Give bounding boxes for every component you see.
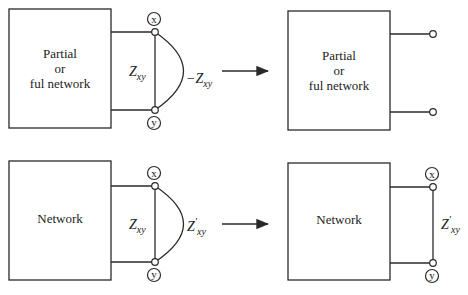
- open-node-bottom: [430, 109, 437, 116]
- impedance-arc: [155, 186, 184, 262]
- bottom-left-circuit: Network x y Zxy Z'xy: [9, 161, 206, 282]
- box-label: Network: [316, 212, 362, 227]
- impedance-label: Zxy: [129, 217, 146, 235]
- terminal-y-label: y: [151, 268, 157, 280]
- negative-impedance-arc: [155, 32, 184, 110]
- box-label-line2: or: [334, 63, 346, 78]
- arc-impedance-label: −Zxy: [186, 71, 213, 89]
- open-node-top: [430, 31, 437, 38]
- terminal-y-label: y: [429, 269, 435, 281]
- node-x: [152, 29, 159, 36]
- box-label-line2: or: [55, 61, 67, 76]
- box-label-line3: ful network: [30, 76, 91, 91]
- box-label-line3: ful network: [309, 78, 370, 93]
- node-y: [152, 107, 159, 114]
- arc-impedance-label: Z'xy: [187, 216, 206, 237]
- top-left-circuit: Partial or ful network x y Zxy −Zxy: [9, 9, 213, 130]
- terminal-x-label: x: [429, 168, 435, 180]
- node-y: [152, 259, 159, 266]
- impedance-label: Zxy: [129, 64, 146, 82]
- equivalent-impedance-label: Z'xy: [441, 214, 460, 235]
- terminal-x-label: x: [151, 13, 157, 25]
- box-label-line1: Partial: [322, 48, 356, 63]
- box-label: Network: [37, 211, 83, 226]
- node-x: [430, 184, 437, 191]
- terminal-x-label: x: [151, 167, 157, 179]
- top-right-circuit: Partial or ful network: [288, 11, 436, 130]
- terminal-y-label: y: [151, 116, 157, 128]
- node-x: [152, 183, 159, 190]
- box-label-line1: Partial: [43, 46, 77, 61]
- node-y: [430, 260, 437, 267]
- bottom-right-circuit: Network x y Z'xy: [288, 163, 460, 283]
- network-equivalence-diagram: Partial or ful network x y Zxy −Zxy Part…: [0, 0, 468, 295]
